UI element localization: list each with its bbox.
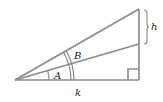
h-bracket: [144, 10, 149, 44]
angle-a-arc: [48, 71, 49, 80]
triangle-diagram: A B h k: [0, 0, 163, 102]
k-label: k: [75, 87, 81, 98]
outer-hypotenuse: [15, 9, 139, 80]
angle-a-label: A: [53, 70, 61, 81]
h-label: h: [151, 21, 157, 32]
angle-b-label: B: [73, 50, 81, 61]
right-angle-marker: [128, 69, 139, 80]
